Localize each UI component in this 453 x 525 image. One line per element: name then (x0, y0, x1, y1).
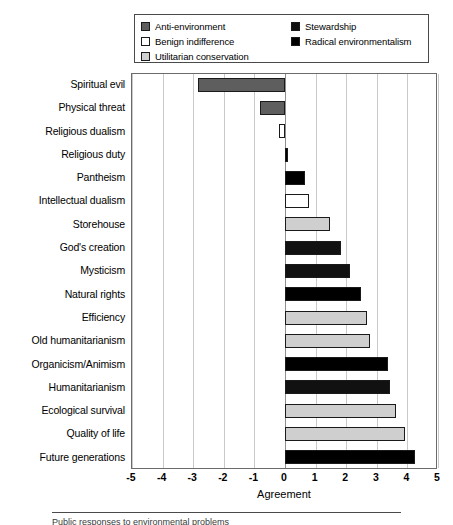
x-axis-title: Agreement (131, 488, 437, 500)
legend-label-benign-indifference: Benign indifference (155, 36, 234, 47)
x-tick-label: 2 (334, 471, 356, 483)
y-axis-label: Efficiency (82, 306, 125, 329)
legend-swatch-benign-indifference (141, 37, 150, 46)
bar-row (132, 307, 436, 330)
bar-row (132, 423, 436, 446)
y-axis-label: Natural rights (65, 283, 125, 306)
plot-area (131, 73, 437, 469)
legend-label-utilitarian-conservation: Utilitarian conservation (155, 51, 249, 62)
bar-row (132, 214, 436, 237)
x-tick-label: -2 (212, 471, 234, 483)
bar[interactable] (285, 194, 309, 208)
bar-row (132, 260, 436, 283)
legend-swatch-utilitarian-conservation (141, 52, 150, 61)
x-axis-ticks: -5-4-3-2-1012345 (131, 471, 437, 487)
y-axis-label: Pantheism (77, 166, 125, 189)
legend-label-radical-environmentalism: Radical environmentalism (305, 36, 411, 47)
bar-row (132, 144, 436, 167)
y-axis-label: Religious duty (61, 143, 125, 166)
y-axis-label: Spiritual evil (70, 73, 125, 96)
legend-column-right: Stewardship Radical environmentalism (291, 19, 424, 64)
bar-row (132, 237, 436, 260)
bar[interactable] (285, 334, 370, 348)
bar[interactable] (285, 217, 330, 231)
y-axis-label: Humanitarianism (48, 376, 125, 399)
legend-column-left: Anti-environment Benign indifference Uti… (141, 19, 291, 64)
x-tick-label: 1 (304, 471, 326, 483)
bar[interactable] (285, 148, 288, 162)
y-axis-label: Quality of life (67, 422, 125, 445)
bars-layer (132, 74, 436, 468)
y-axis-label: Religious dualism (45, 120, 125, 143)
bar[interactable] (285, 241, 341, 255)
x-tick-label: 0 (273, 471, 295, 483)
y-axis-label: Storehouse (73, 213, 125, 236)
legend-label-stewardship: Stewardship (305, 21, 356, 32)
bar-row (132, 121, 436, 144)
y-axis-label: Old humanitarianism (32, 329, 125, 352)
y-axis-label: Organicism/Animism (31, 353, 125, 376)
y-axis-label: Future generations (40, 446, 125, 469)
legend-item-stewardship: Stewardship (291, 19, 424, 33)
bar[interactable] (285, 380, 390, 394)
figure-caption: Public responses to environmental proble… (52, 517, 412, 525)
legend-item-benign-indifference: Benign indifference (141, 34, 291, 48)
bar[interactable] (198, 78, 285, 92)
bar-row (132, 74, 436, 97)
bar[interactable] (285, 404, 396, 418)
legend-label-anti-environment: Anti-environment (155, 21, 225, 32)
bar[interactable] (285, 287, 361, 301)
x-tick-label: -4 (151, 471, 173, 483)
bar[interactable] (285, 357, 388, 371)
legend-item-radical-environmentalism: Radical environmentalism (291, 34, 424, 48)
x-tick-label: 3 (365, 471, 387, 483)
chart-legend: Anti-environment Benign indifference Uti… (134, 14, 429, 63)
bar[interactable] (285, 311, 367, 325)
bar[interactable] (260, 101, 285, 115)
y-axis-label: God's creation (60, 236, 125, 259)
legend-items-container: Anti-environment Benign indifference Uti… (141, 19, 424, 64)
bar-row (132, 190, 436, 213)
bar-row (132, 400, 436, 423)
bar-row (132, 284, 436, 307)
legend-swatch-stewardship (291, 22, 300, 31)
x-tick-label: 5 (426, 471, 448, 483)
bar[interactable] (285, 427, 405, 441)
y-axis-labels: Spiritual evilPhysical threatReligious d… (0, 73, 125, 469)
bar-row (132, 447, 436, 470)
y-axis-label: Intellectual dualism (39, 189, 125, 212)
x-tick-label: 4 (395, 471, 417, 483)
legend-swatch-radical-environmentalism (291, 37, 300, 46)
y-axis-label: Physical threat (58, 96, 125, 119)
bar-row (132, 97, 436, 120)
y-axis-label: Mysticism (80, 259, 125, 282)
bar[interactable] (285, 171, 305, 185)
bar[interactable] (279, 124, 285, 138)
bar[interactable] (285, 450, 415, 464)
footer-divider (52, 512, 401, 513)
legend-item-utilitarian-conservation: Utilitarian conservation (141, 49, 291, 63)
bar-row (132, 330, 436, 353)
x-tick-label: -1 (242, 471, 264, 483)
gridline-5 (438, 74, 439, 468)
x-tick-label: -5 (120, 471, 142, 483)
bar[interactable] (285, 264, 350, 278)
y-axis-label: Ecological survival (41, 399, 125, 422)
bar-row (132, 354, 436, 377)
x-tick-label: -3 (181, 471, 203, 483)
bar-row (132, 377, 436, 400)
bar-row (132, 167, 436, 190)
legend-item-anti-environment: Anti-environment (141, 19, 291, 33)
legend-swatch-anti-environment (141, 22, 150, 31)
